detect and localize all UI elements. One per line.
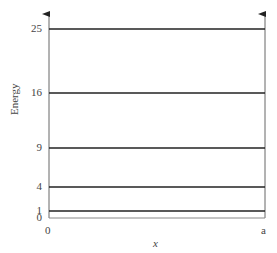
energy-level-label: 9 (22, 142, 42, 153)
x-tick-0: 0 (45, 225, 51, 236)
energy-level-label: 4 (22, 181, 42, 192)
energy-level-label: 16 (22, 87, 42, 98)
x-axis-label: x (153, 238, 158, 249)
energy-level-label: 25 (22, 23, 42, 34)
x-tick-a: a (261, 225, 266, 236)
energy-level-label: 0 (22, 212, 42, 223)
y-axis-label: Energy (8, 83, 20, 115)
